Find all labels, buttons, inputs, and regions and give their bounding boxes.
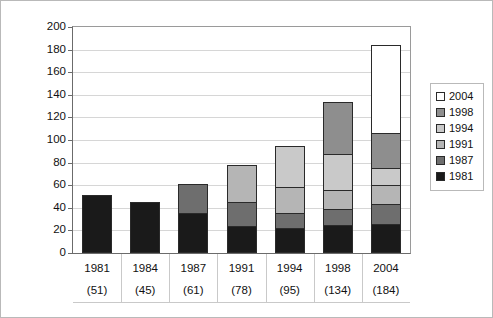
bar-segment[interactable] bbox=[371, 168, 401, 185]
bar-segment[interactable] bbox=[227, 165, 257, 202]
legend-item[interactable]: 1998 bbox=[436, 105, 479, 120]
y-axis-tick-label: 140 bbox=[21, 89, 66, 100]
legend-swatch-1987 bbox=[436, 156, 445, 165]
bar-segment[interactable] bbox=[227, 226, 257, 253]
chart-frame: 020406080100120140160180200 1981(51)1984… bbox=[0, 0, 493, 318]
y-axis-tick-mark bbox=[68, 185, 72, 186]
legend-item[interactable]: 1994 bbox=[436, 121, 479, 136]
legend-swatch-1981 bbox=[436, 172, 445, 181]
y-axis-tick-label: 120 bbox=[21, 111, 66, 122]
bar-segment[interactable] bbox=[275, 228, 305, 253]
bar-column[interactable] bbox=[371, 45, 401, 253]
legend-item[interactable]: 1981 bbox=[436, 169, 479, 184]
bar-column[interactable] bbox=[178, 184, 208, 253]
legend-item-label: 1981 bbox=[449, 171, 473, 182]
bar-segment[interactable] bbox=[323, 225, 353, 253]
bar-column[interactable] bbox=[275, 146, 305, 253]
bar-column[interactable] bbox=[82, 195, 112, 253]
bars-layer bbox=[73, 27, 410, 253]
bar-segment[interactable] bbox=[275, 146, 305, 188]
bar-segment[interactable] bbox=[275, 187, 305, 213]
y-axis-tick-mark bbox=[68, 253, 72, 254]
bar-segment[interactable] bbox=[371, 224, 401, 253]
bar-segment[interactable] bbox=[275, 213, 305, 228]
legend-swatch-1994 bbox=[436, 124, 445, 133]
x-axis-bottom-rule bbox=[73, 302, 410, 303]
y-axis-tick-label: 0 bbox=[21, 247, 66, 258]
y-axis-tick-mark bbox=[68, 163, 72, 164]
bar-segment[interactable] bbox=[130, 202, 160, 253]
y-axis-tick-label: 40 bbox=[21, 202, 66, 213]
legend-swatch-1998 bbox=[436, 108, 445, 117]
legend-item-label: 1987 bbox=[449, 155, 473, 166]
y-axis-tick-label: 100 bbox=[21, 134, 66, 145]
y-axis-tick-mark bbox=[68, 27, 72, 28]
y-axis-tick-mark bbox=[68, 50, 72, 51]
bar-segment[interactable] bbox=[82, 195, 112, 253]
bar-segment[interactable] bbox=[371, 45, 401, 133]
bar-segment[interactable] bbox=[371, 204, 401, 223]
y-axis-tick-label: 60 bbox=[21, 179, 66, 190]
y-axis-tick-mark bbox=[68, 230, 72, 231]
legend-item[interactable]: 1987 bbox=[436, 153, 479, 168]
legend-item-label: 2004 bbox=[449, 91, 473, 102]
y-axis-tick-mark bbox=[68, 95, 72, 96]
y-axis-tick-mark bbox=[68, 72, 72, 73]
bar-segment[interactable] bbox=[178, 184, 208, 213]
y-axis-tick-mark bbox=[68, 140, 72, 141]
y-axis-tick-mark bbox=[68, 117, 72, 118]
legend-swatch-1991 bbox=[436, 140, 445, 149]
bar-segment[interactable] bbox=[178, 213, 208, 253]
x-axis-total-label: (184) bbox=[356, 284, 416, 296]
bar-segment[interactable] bbox=[227, 202, 257, 226]
bar-segment[interactable] bbox=[323, 190, 353, 209]
y-axis-tick-mark bbox=[68, 208, 72, 209]
bar-segment[interactable] bbox=[323, 209, 353, 225]
bar-segment[interactable] bbox=[371, 185, 401, 204]
bar-column[interactable] bbox=[323, 102, 353, 253]
chart-legend: 200419981994199119871981 bbox=[430, 83, 484, 191]
legend-item-label: 1994 bbox=[449, 123, 473, 134]
legend-item-label: 1998 bbox=[449, 107, 473, 118]
bar-column[interactable] bbox=[130, 202, 160, 253]
bar-segment[interactable] bbox=[323, 154, 353, 190]
y-axis-tick-label: 160 bbox=[21, 66, 66, 77]
y-axis-tick-label: 80 bbox=[21, 157, 66, 168]
legend-item-label: 1991 bbox=[449, 139, 473, 150]
y-axis-tick-label: 180 bbox=[21, 44, 66, 55]
legend-item[interactable]: 1991 bbox=[436, 137, 479, 152]
x-axis-tick-label: 2004 bbox=[356, 262, 416, 274]
bar-segment[interactable] bbox=[323, 102, 353, 154]
bar-segment[interactable] bbox=[371, 133, 401, 168]
legend-item[interactable]: 2004 bbox=[436, 89, 479, 104]
legend-swatch-2004 bbox=[436, 92, 445, 101]
y-axis-tick-label: 20 bbox=[21, 224, 66, 235]
y-axis-tick-label: 200 bbox=[21, 21, 66, 32]
bar-column[interactable] bbox=[227, 165, 257, 253]
